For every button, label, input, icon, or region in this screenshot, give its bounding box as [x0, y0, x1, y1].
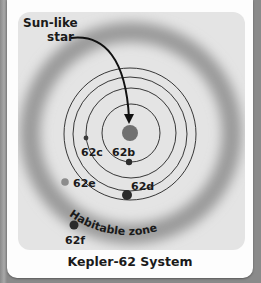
arrow-head-icon [124, 114, 134, 124]
star-label-line1: Sun-like [23, 16, 78, 30]
label-62b: 62b [112, 146, 135, 159]
planet-62c [84, 136, 89, 141]
planet-62b [126, 159, 132, 165]
star [122, 125, 138, 141]
label-62d: 62d [131, 180, 154, 193]
planet-62e [61, 178, 69, 186]
label-62e: 62e [73, 177, 96, 190]
star-label-line2: star [47, 30, 74, 44]
label-62f: 62f [65, 234, 85, 247]
kepler-62-diagram: Habitable zone Sun-like star 62c 62b 62e… [0, 0, 261, 283]
label-62c: 62c [81, 146, 103, 159]
